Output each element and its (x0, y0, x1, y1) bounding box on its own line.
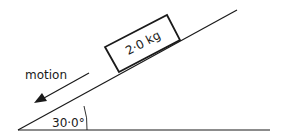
angle-label: 30·0° (52, 116, 85, 130)
motion-label: motion (25, 68, 67, 82)
inclined-plane-diagram: 2·0 kg motion 30·0° (0, 0, 284, 140)
motion-arrow-head-icon (34, 93, 47, 103)
